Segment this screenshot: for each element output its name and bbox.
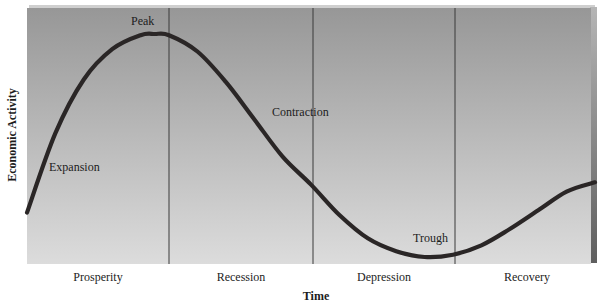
y-axis-label: Economic Activity: [5, 88, 19, 182]
annotation-peak: Peak: [131, 14, 154, 28]
annotation-contraction: Contraction: [272, 105, 329, 119]
x-axis-label: Time: [303, 289, 330, 302]
top-bevel: [29, 5, 595, 8]
business-cycle-diagram: Peak Expansion Contraction Trough Prospe…: [0, 0, 604, 302]
phase-label-recovery: Recovery: [504, 270, 550, 284]
phase-label-depression: Depression: [357, 270, 411, 284]
right-bevel: [590, 7, 597, 263]
annotation-trough: Trough: [413, 231, 448, 245]
phase-label-recession: Recession: [217, 270, 266, 284]
annotation-expansion: Expansion: [49, 160, 100, 174]
plot-panel: [27, 8, 591, 264]
phase-label-prosperity: Prosperity: [73, 270, 122, 284]
